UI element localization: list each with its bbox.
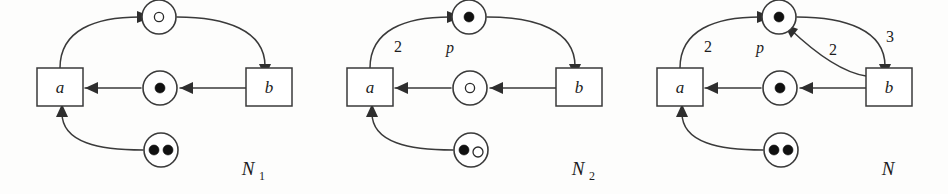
token-filled-place-bottom-n2 (459, 145, 469, 155)
net-caption-n2: N (571, 158, 586, 179)
arc-ptop-to-b-n2 (487, 17, 575, 66)
token-filled-1-place-bottom-n (769, 145, 779, 155)
place-top-label-n2: p (445, 39, 454, 57)
token-filled-2-place-bottom-n1 (163, 145, 173, 155)
transition-b-label-n2: b (575, 78, 584, 97)
token-filled-place-top-n2 (464, 12, 474, 22)
arc-pbottom-to-a-n2 (372, 113, 453, 150)
net-diagram-n1: a b N 1 2 (0, 0, 948, 194)
transition-a-label-n: a (676, 78, 685, 97)
token-hollow-place-middle-n2 (465, 83, 474, 92)
arc-a-to-ptop-n2 (370, 17, 450, 68)
arc-pbottom-to-a-n1 (62, 113, 143, 150)
transition-b-label-n: b (885, 78, 894, 97)
token-filled-place-top-n (774, 12, 784, 22)
arc-b-to-ptop-n (790, 29, 866, 76)
arc-weight-a-to-ptop-n: 2 (704, 38, 712, 55)
arrowhead-b-to-pmiddle-n1 (180, 82, 193, 94)
arc-weight-ptop-to-b-n: 3 (886, 28, 894, 45)
net-group-n: 2 3 2 a b (657, 0, 912, 179)
net-caption-n: N (881, 158, 896, 179)
arc-a-to-ptop-n1 (60, 17, 140, 68)
arc-a-to-ptop-n (680, 17, 760, 68)
token-filled-2-place-bottom-n (783, 145, 793, 155)
transition-a-label-n1: a (56, 78, 65, 97)
net-caption-subscript-n2: 2 (589, 169, 595, 183)
arc-ptop-to-b-n (797, 17, 885, 66)
arrowhead-b-to-pmiddle-n (800, 82, 813, 94)
petri-net-figure: a b N 1 2 (0, 0, 948, 194)
arc-weight-a-to-ptop-n2: 2 (394, 38, 402, 55)
token-hollow-place-bottom-n2 (473, 147, 483, 157)
arrowhead-b-to-pmiddle-n2 (490, 82, 503, 94)
arrowhead-pmiddle-to-a-n1 (85, 82, 98, 94)
token-hollow-place-top-n1 (154, 12, 163, 21)
place-top-label-n: p (755, 39, 764, 57)
token-filled-1-place-bottom-n1 (149, 145, 159, 155)
arc-ptop-to-b-n1 (177, 17, 265, 66)
arrowhead-pmiddle-to-a-n2 (395, 82, 408, 94)
transition-a-label-n2: a (366, 78, 375, 97)
token-filled-place-middle-n1 (155, 83, 165, 93)
net-caption-n1: N (241, 158, 256, 179)
arc-pbottom-to-a-n (682, 113, 763, 150)
net-caption-subscript-n1: 1 (259, 169, 265, 183)
net-group-n1: a b N 1 (37, 0, 292, 183)
arc-weight-b-to-ptop-n: 2 (829, 41, 837, 58)
token-filled-place-middle-n (775, 83, 785, 93)
net-group-n2: 2 a b p (347, 0, 602, 183)
transition-b-label-n1: b (265, 78, 274, 97)
arrowhead-pmiddle-to-a-n (705, 82, 718, 94)
